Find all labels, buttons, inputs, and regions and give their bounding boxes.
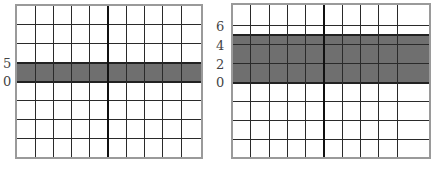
grid-line bbox=[181, 6, 182, 157]
center-axis-line bbox=[323, 5, 325, 157]
shaded-band bbox=[17, 63, 201, 83]
y-label-6: 6 bbox=[216, 20, 224, 33]
grid-line bbox=[71, 6, 72, 157]
grid-line bbox=[305, 5, 306, 157]
y-label-4: 4 bbox=[216, 39, 224, 52]
grid-line bbox=[287, 5, 288, 157]
grid-line bbox=[342, 5, 343, 157]
grid-line bbox=[233, 25, 429, 26]
grid-line bbox=[35, 6, 36, 157]
grid-line bbox=[250, 5, 251, 157]
center-axis-line bbox=[107, 6, 109, 157]
grid-line bbox=[360, 5, 361, 157]
grid-line bbox=[17, 43, 201, 44]
grid-line bbox=[89, 6, 90, 157]
grid-line bbox=[233, 120, 429, 121]
grid-line bbox=[126, 6, 127, 157]
y-label-0: 0 bbox=[3, 75, 11, 88]
grid-line bbox=[17, 119, 201, 120]
grid-line bbox=[162, 6, 163, 157]
grid-line bbox=[233, 44, 429, 45]
y-label-2: 2 bbox=[216, 58, 224, 71]
shaded-band bbox=[233, 35, 429, 83]
grid-line bbox=[233, 139, 429, 140]
grid-line bbox=[378, 5, 379, 157]
grid-line bbox=[17, 62, 201, 64]
y-label-5: 5 bbox=[3, 57, 11, 70]
grid-line bbox=[144, 6, 145, 157]
grid-line bbox=[397, 5, 398, 157]
grid-line bbox=[17, 81, 201, 83]
grid-line bbox=[233, 34, 429, 36]
grid-line bbox=[17, 24, 201, 25]
grid-line bbox=[233, 101, 429, 102]
grid-line bbox=[269, 5, 270, 157]
grid-line bbox=[17, 138, 201, 139]
right-grid bbox=[231, 3, 431, 159]
left-grid bbox=[15, 4, 203, 159]
grid-line bbox=[17, 100, 201, 101]
grid-line bbox=[233, 63, 429, 64]
grid-line bbox=[233, 82, 429, 84]
y-label-0: 0 bbox=[216, 76, 224, 89]
grid-line bbox=[53, 6, 54, 157]
